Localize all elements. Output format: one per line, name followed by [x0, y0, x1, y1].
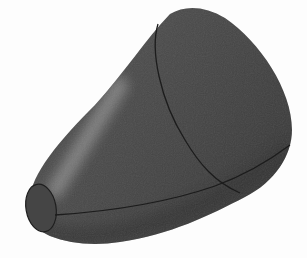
image-canvas — [0, 0, 307, 258]
cone-render — [0, 0, 307, 258]
